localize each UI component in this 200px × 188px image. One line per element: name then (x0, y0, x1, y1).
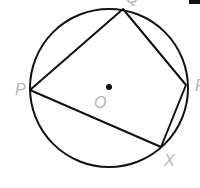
label-o: O (94, 95, 106, 111)
label-p: P (15, 82, 26, 98)
label-q: Q (126, 0, 138, 6)
label-x: X (164, 153, 175, 169)
center-point (106, 84, 112, 90)
label-r: R (195, 78, 200, 94)
corner-mark (189, 0, 200, 4)
